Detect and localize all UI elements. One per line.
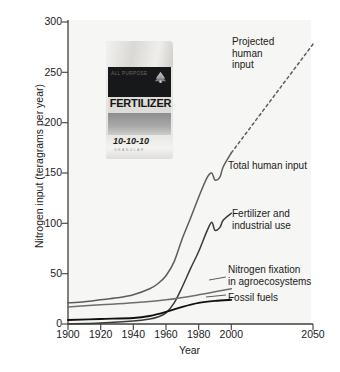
fertilizer-bag-top-fold (106, 41, 173, 67)
series-line-nitrogen-fixation-in-agroecosystems (68, 289, 231, 307)
fertilizer-bag-grey-band (108, 113, 171, 135)
x-tick-2000: 2000 (208, 328, 254, 340)
annotation-projected-human-input: Projected human input (232, 36, 274, 71)
chart-figure: 0 50 100 150 200 250 300 1900 1920 1940 … (0, 0, 340, 372)
leader-line-nitrogen-fixation (209, 277, 226, 280)
leader-line-fossil-fuels (206, 295, 226, 297)
y-axis-ticks (62, 22, 68, 324)
series-line-total-human-input (68, 153, 231, 303)
x-tick-2050: 2050 (290, 328, 336, 340)
y-axis-title: Nitrogen input (teragrams per year) (33, 41, 45, 291)
fertilizer-bag-logo-icon (153, 70, 168, 84)
fertilizer-bag-sub-text: GRANULAR (114, 148, 145, 152)
annotation-total-human-input: Total human input (228, 160, 307, 172)
x-axis-title: Year (68, 344, 311, 356)
series-line-fossil-fuels (68, 300, 231, 320)
series-line-fertilizer-and-industrial-use (68, 213, 231, 324)
annotation-fertilizer-and-industrial-use: Fertilizer and industrial use (232, 208, 291, 231)
annotation-leader-lines (206, 277, 226, 297)
fertilizer-bag-image: ALL PURPOSE FERTILIZER 10-10-10 GRANULAR (106, 41, 173, 159)
fertilizer-bag-product-text: FERTILIZER (109, 97, 172, 109)
y-tick-0: 0 (28, 318, 62, 328)
fertilizer-bag-brand-text: ALL PURPOSE (111, 71, 148, 76)
annotation-nitrogen-fixation-in-agroecosystems: Nitrogen fixation in agroecosystems (228, 264, 311, 287)
y-tick-300: 300 (28, 16, 62, 26)
fertilizer-bag-npk-text: 10-10-10 (113, 136, 149, 146)
annotation-fossil-fuels: Fossil fuels (228, 292, 278, 304)
